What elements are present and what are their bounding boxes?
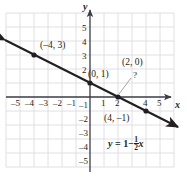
point-4-neg1	[143, 108, 148, 113]
x-tick-1: 1	[101, 99, 106, 108]
equation-fraction: 12	[134, 136, 139, 153]
graph-figure: –5 –4 –3 –2 –1 1 2 4 5 5 4 3 2 –1 –2 –3 …	[0, 0, 187, 181]
y-tick-4: 4	[82, 38, 87, 47]
x-tick-2: 2	[115, 99, 120, 108]
x-axis-label: x	[175, 100, 180, 110]
y-tick--1: –1	[79, 101, 88, 110]
y-tick-2: 2	[82, 66, 87, 75]
callout-leader-line	[119, 78, 131, 94]
x-tick-4: 4	[143, 99, 148, 108]
point-0-1	[87, 80, 92, 85]
coordinate-plane-svg	[0, 0, 187, 181]
point-label-0-1: (0, 1)	[88, 70, 109, 80]
y-axis-label: y	[83, 2, 87, 12]
x-tick--1: –1	[67, 99, 76, 108]
y-tick--4: –4	[79, 143, 88, 152]
x-tick--2: –2	[53, 99, 62, 108]
x-tick-5: 5	[157, 99, 162, 108]
question-mark-label: ?	[133, 71, 137, 80]
x-tick--3: –3	[39, 99, 48, 108]
y-tick--5: –5	[79, 157, 88, 166]
y-tick--3: –3	[79, 129, 88, 138]
equation-x: x	[139, 138, 144, 149]
y-tick--2: –2	[79, 115, 88, 124]
y-tick-5: 5	[82, 24, 87, 33]
point-label-2-0: (2, 0)	[122, 58, 143, 68]
point-neg4-3	[31, 52, 36, 57]
fraction-denominator: 2	[134, 144, 139, 152]
point-label-neg4-3: (–4, 3)	[40, 41, 65, 51]
point-label-4-neg1: (4, –1)	[104, 114, 129, 124]
x-tick--4: –4	[25, 99, 34, 108]
x-tick--5: –5	[11, 99, 20, 108]
equation-label: y = 1−12x	[108, 136, 144, 153]
y-tick-3: 3	[82, 52, 87, 61]
